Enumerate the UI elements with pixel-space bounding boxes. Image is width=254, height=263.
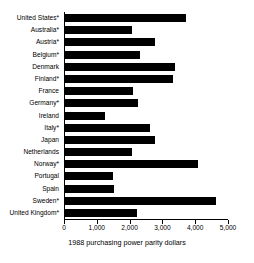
bar — [65, 63, 175, 71]
bar — [65, 14, 186, 22]
y-axis-label: United Kingdom* — [10, 210, 59, 217]
plot-area — [64, 12, 229, 219]
y-axis-label: Ireland — [39, 112, 59, 119]
x-axis-title: 1988 purchasing power parity dollars — [0, 239, 254, 247]
bar — [65, 26, 132, 34]
bar — [65, 185, 114, 193]
y-axis-label: Germany* — [29, 100, 59, 107]
y-axis-label: Sweden* — [33, 197, 59, 204]
bar — [65, 209, 137, 217]
y-axis-label: Netherlands — [23, 149, 59, 156]
x-axis-line — [64, 219, 228, 220]
bar — [65, 197, 216, 205]
y-axis-label: Japan — [41, 137, 59, 144]
bar — [65, 75, 173, 83]
y-axis-labels: United States*Australia*Austria*Belgium*… — [0, 12, 62, 219]
y-axis-label: Denmark — [32, 63, 59, 70]
y-axis-label: Austria* — [36, 39, 59, 46]
bar — [65, 160, 198, 168]
bar-chart: United States*Australia*Austria*Belgium*… — [0, 0, 254, 263]
y-axis-label: Belgium* — [33, 51, 59, 58]
x-axis-tick-label: 0 — [62, 225, 66, 232]
bar — [65, 124, 150, 132]
bar — [65, 148, 132, 156]
y-axis-label: Portugal — [34, 173, 59, 180]
bar — [65, 112, 105, 120]
y-axis-label: France — [38, 88, 59, 95]
x-axis-tick-label: 1,000 — [89, 225, 106, 232]
x-axis-tick-label: 4,000 — [187, 225, 204, 232]
x-axis-tick-label: 2,000 — [121, 225, 138, 232]
bar — [65, 51, 140, 59]
y-axis-label: Italy* — [44, 124, 59, 131]
y-axis-label: Finland* — [35, 76, 59, 83]
bar — [65, 99, 138, 107]
bar — [65, 172, 113, 180]
y-axis-label: United States* — [17, 15, 59, 22]
y-axis-label: Australia* — [31, 27, 59, 34]
y-axis-label: Norway* — [34, 161, 59, 168]
x-axis-tick-label: 3,000 — [154, 225, 171, 232]
bar — [65, 38, 155, 46]
bar — [65, 136, 155, 144]
bar — [65, 87, 133, 95]
y-axis-label: Spain — [42, 185, 59, 192]
x-axis-tick-label: 5,000 — [220, 225, 237, 232]
